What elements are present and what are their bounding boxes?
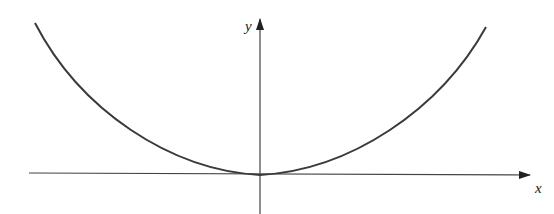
x-axis-label: x [535,180,542,197]
graph-figure: y x [0,0,554,214]
y-axis-label: y [245,18,252,35]
graph-canvas [0,0,554,214]
